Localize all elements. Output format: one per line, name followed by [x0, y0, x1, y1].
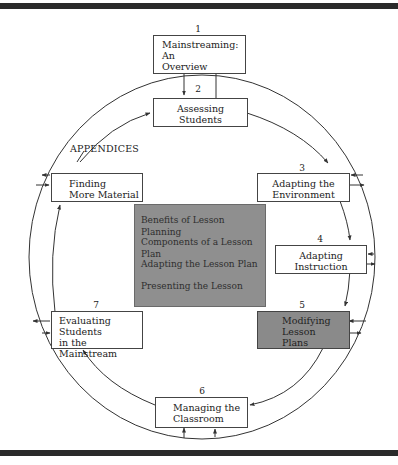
node-finding-more-material: Finding More Material [51, 173, 143, 202]
appendices-line-2: More Material [69, 189, 142, 200]
topic-adapting: Adapting the Lesson Plan [141, 258, 265, 280]
node-3-line-1: Adapting the [258, 178, 349, 189]
node-6-line-2: Classroom [173, 413, 247, 424]
node-assessing-students: Assessing Students [153, 98, 248, 127]
node-1-line-1: Mainstreaming: [162, 39, 245, 50]
node-7-line-3: Mainstream [59, 348, 142, 359]
appendices-line-1: Finding [69, 178, 142, 189]
arrow-5-to-6 [250, 348, 323, 405]
node-adapting-instruction: Adapting Instruction [275, 245, 367, 274]
node-4-line-1: Adapting [276, 250, 366, 261]
node-7-number: 7 [86, 300, 106, 310]
topic-components: Components of a Lesson Plan [141, 236, 265, 258]
node-5-line-3: Plans [282, 337, 349, 348]
node-4-line-2: Instruction [276, 261, 366, 272]
node-managing-classroom: Managing the Classroom [155, 397, 248, 428]
node-mainstreaming-overview: Mainstreaming: An Overview [153, 35, 246, 74]
arrow-appendices-to-2 [80, 113, 150, 162]
node-5-line-1: Modifying [282, 315, 349, 326]
node-1-line-3: Overview [162, 61, 245, 72]
node-7-line-1: Evaluating Students [59, 315, 142, 337]
appendices-caption: APPENDICES [70, 143, 139, 154]
node-5-line-2: Lesson [282, 326, 349, 337]
node-2-line-2: Students [154, 114, 247, 125]
node-evaluating-students: Evaluating Students in the Mainstream [51, 311, 143, 349]
node-6-number: 6 [192, 386, 212, 396]
topic-presenting: Presenting the Lesson [141, 280, 265, 302]
lesson-plan-topics-panel: Benefits of Lesson Planning Components o… [134, 204, 266, 307]
arrow-3-to-4 [340, 201, 350, 240]
node-3-number: 3 [292, 163, 312, 173]
node-7-line-2: in the [59, 337, 142, 348]
node-modifying-lesson-plans: Modifying Lesson Plans [257, 311, 350, 349]
node-4-number: 4 [310, 234, 330, 244]
node-5-number: 5 [292, 300, 312, 310]
node-2-line-1: Assessing [154, 103, 247, 114]
node-1-line-2: An [162, 50, 245, 61]
node-2-number: 2 [188, 84, 208, 94]
node-adapting-environment: Adapting the Environment [257, 173, 350, 202]
arrow-7-to-appendices [52, 205, 60, 312]
node-3-line-2: Environment [258, 189, 349, 200]
arrow-4-to-5 [345, 270, 350, 306]
node-1-number: 1 [188, 24, 208, 34]
topic-benefits: Benefits of Lesson Planning [141, 214, 265, 236]
node-6-line-1: Managing the [173, 402, 247, 413]
